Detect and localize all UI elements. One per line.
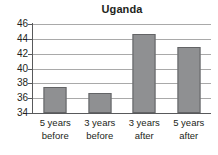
x-axis-category-label: 3 yearsafter (122, 116, 167, 142)
bar[interactable] (44, 87, 67, 113)
x-axis-category-label-line: before (78, 129, 123, 142)
x-axis-category-label-line: 3 years (122, 116, 167, 129)
y-axis-tick-mark (28, 69, 32, 70)
y-axis-tick-label: 34 (4, 108, 28, 118)
y-axis-tick-mark (28, 113, 32, 114)
x-axis-category-label-line: 5 years (167, 116, 212, 129)
bar-slot (122, 24, 167, 113)
x-axis-category-label-line: after (122, 129, 167, 142)
y-axis-tick-mark (28, 83, 32, 84)
bars-layer (33, 24, 211, 113)
bar[interactable] (88, 93, 111, 113)
x-axis-category-label-line: 3 years (78, 116, 123, 129)
y-axis-tick-label: 44 (4, 34, 28, 44)
x-axis-category-labels: 5 yearsbefore3 yearsbefore3 yearsafter5 … (33, 116, 211, 152)
y-axis-tick-mark (28, 24, 32, 25)
bar[interactable] (177, 47, 200, 113)
bar-chart-figure: Uganda 46444240383634 5 yearsbefore3 yea… (0, 0, 218, 155)
y-axis-tick-mark (28, 54, 32, 55)
y-axis-tick-labels: 46444240383634 (0, 0, 28, 155)
x-axis-category-label-line: 5 years (33, 116, 78, 129)
bar[interactable] (133, 34, 156, 113)
y-axis-tick-label: 42 (4, 49, 28, 59)
bar-slot (78, 24, 123, 113)
y-axis-tick-mark (28, 98, 32, 99)
y-axis-tick-mark (28, 39, 32, 40)
bar-slot (167, 24, 212, 113)
x-axis-category-label-line: before (33, 129, 78, 142)
bar-slot (33, 24, 78, 113)
x-axis-category-label: 3 yearsbefore (78, 116, 123, 142)
x-axis-category-label: 5 yearsafter (167, 116, 212, 142)
chart-title: Uganda (33, 2, 211, 16)
x-axis-category-label: 5 yearsbefore (33, 116, 78, 142)
y-axis-tick-label: 46 (4, 19, 28, 29)
x-axis-baseline (33, 113, 211, 114)
x-axis-category-label-line: after (167, 129, 212, 142)
y-axis-tick-label: 38 (4, 78, 28, 88)
y-axis-tick-label: 36 (4, 93, 28, 103)
y-axis-tick-label: 40 (4, 64, 28, 74)
